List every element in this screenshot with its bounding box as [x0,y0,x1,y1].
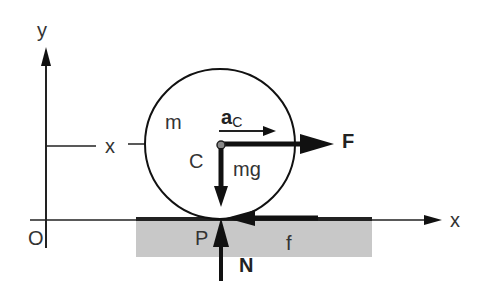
x-axis-arrowhead [424,215,442,225]
free-body-diagram: y x x O m aC F C mg f N P [0,0,485,294]
center-point [217,141,225,149]
center-label: C [189,150,203,172]
y-axis-arrowhead [41,47,51,66]
upper-x-label: x [105,135,115,157]
force-F-label: F [342,130,354,152]
x-axis-label: x [450,209,460,231]
ground-block [136,221,372,257]
origin-label: O [28,227,44,249]
mass-label: m [165,111,182,133]
friction-label: f [286,232,292,254]
weight-label: mg [233,158,261,180]
contact-point-label: P [195,227,208,249]
normal-label: N [239,254,253,276]
force-F-arrowhead [300,134,334,154]
y-axis-label: y [37,19,47,41]
